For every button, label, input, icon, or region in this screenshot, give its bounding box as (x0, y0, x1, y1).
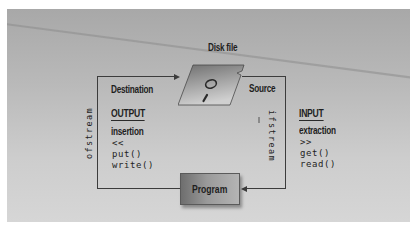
output-flow-left-line (97, 76, 98, 189)
arrow-into-program-icon (241, 186, 247, 192)
program-label: Program (192, 183, 227, 195)
program-box: Program (180, 173, 240, 205)
insertion-label: insertion (111, 126, 143, 137)
input-flow-bottom-line (246, 188, 286, 189)
ifstream-label: ifstream (267, 110, 277, 162)
extraction-operator: >> (300, 137, 312, 148)
source-label: Source (249, 83, 275, 94)
destination-label: Destination (111, 84, 153, 95)
insertion-operator: << (112, 138, 124, 149)
write-method: write() (112, 160, 154, 171)
input-flow-right-line (285, 76, 286, 189)
put-method: put() (112, 149, 142, 160)
output-heading: OUTPUT (111, 107, 145, 121)
extraction-label: extraction (299, 125, 336, 136)
input-flow-top-line (242, 76, 286, 77)
read-method: read() (300, 159, 336, 170)
floppy-disk-icon (178, 64, 246, 106)
output-flow-bottom-line (97, 188, 180, 189)
input-heading: INPUT (299, 107, 324, 121)
disk-file-label: Disk file (208, 42, 237, 53)
scan-speck (258, 117, 260, 123)
get-method: get() (300, 148, 330, 159)
ofstream-label: ofstream (84, 107, 94, 159)
output-flow-top-line (97, 76, 177, 77)
